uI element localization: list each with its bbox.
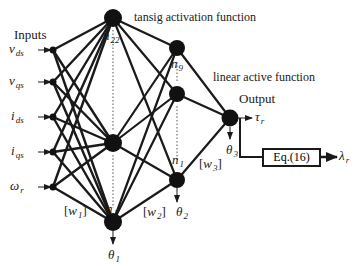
input-nodes bbox=[50, 47, 57, 191]
equation-16-box: Eq.(16) bbox=[262, 148, 321, 167]
input-node-wr bbox=[50, 184, 57, 191]
input-label-iqs: iqs bbox=[11, 144, 24, 160]
input-node-vds bbox=[50, 47, 57, 54]
inputs-heading: Inputs bbox=[14, 28, 47, 41]
weights-layer-2-connections bbox=[113, 18, 177, 222]
input-node-vqs bbox=[50, 79, 57, 86]
input-arrows bbox=[38, 50, 51, 187]
bias-theta1-label: θ1 bbox=[108, 248, 120, 264]
hidden2-bottom-node-label: n1 bbox=[172, 153, 184, 169]
output-heading: Output bbox=[239, 92, 275, 105]
bias-theta3-label: θ3 bbox=[226, 143, 238, 159]
input-label-ids: ids bbox=[11, 109, 24, 125]
hidden1-top-node-label: n22 bbox=[103, 29, 120, 45]
hidden2-node-n9 bbox=[169, 40, 185, 56]
weights-w3-label: [w3] bbox=[199, 157, 222, 173]
input-node-ids bbox=[50, 114, 57, 121]
weights-w2-label: [w2] bbox=[143, 205, 166, 221]
hidden2-node-n1 bbox=[169, 172, 185, 188]
weights-layer-1-connections bbox=[53, 18, 113, 222]
neural-network-diagram bbox=[0, 0, 354, 268]
bias-theta2-label: θ2 bbox=[176, 205, 188, 221]
hidden2-node-middle bbox=[169, 86, 185, 102]
output-label-tau-r: τr bbox=[255, 110, 264, 126]
output-label-lambda-r: λr bbox=[339, 149, 349, 165]
tansig-activation-label: tansig activation function bbox=[134, 11, 256, 23]
hidden1-node-n22 bbox=[104, 9, 122, 27]
output-node bbox=[222, 110, 239, 127]
hidden1-bottom-node-label: n1 bbox=[106, 202, 118, 218]
input-label-vqs: vqs bbox=[9, 74, 24, 90]
hidden1-node-middle bbox=[104, 134, 122, 152]
input-label-vds: vds bbox=[9, 42, 24, 58]
input-node-iqs bbox=[50, 149, 57, 156]
input-label-wr: ωr bbox=[10, 179, 24, 195]
linear-activation-label: linear active function bbox=[213, 71, 315, 83]
hidden2-top-node-label: n9 bbox=[171, 57, 183, 73]
weights-w1-label: [w1] bbox=[64, 204, 87, 220]
